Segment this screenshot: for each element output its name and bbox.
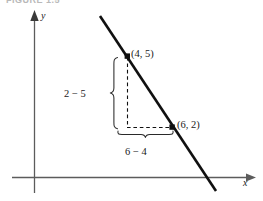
coordinate-plane-graphic <box>0 0 263 201</box>
point-marker-b <box>169 124 174 129</box>
x-axis-label: x <box>243 178 247 188</box>
y-axis-arrowhead <box>30 10 38 21</box>
y-axis-label: y <box>41 11 45 21</box>
x-axis <box>12 174 256 182</box>
y-axis <box>30 10 38 193</box>
figure-caption: FIGURE 1.5 <box>6 0 60 5</box>
point-marker-a <box>125 53 130 58</box>
rise-label: 2 − 5 <box>64 89 86 100</box>
plotted-line <box>100 16 216 191</box>
point-label-b: (6, 2) <box>177 120 200 131</box>
rise-brace <box>110 58 117 129</box>
run-brace <box>118 131 173 137</box>
figure-container: FIGURE 1.5 y x (4, 5) (6, 2) 2 − 5 6 − 4 <box>0 0 263 201</box>
run-label: 6 − 4 <box>125 147 147 158</box>
point-label-a: (4, 5) <box>131 49 154 60</box>
x-axis-arrowhead <box>246 174 256 182</box>
